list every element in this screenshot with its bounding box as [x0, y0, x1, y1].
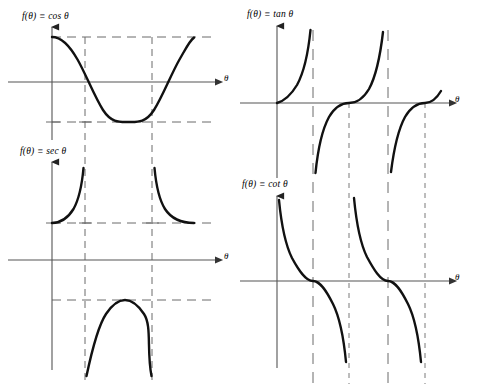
sec-function-label: f(θ) ≡ sec θ [20, 146, 66, 156]
panel-sec [8, 162, 216, 376]
left-column-vertical-guides [85, 37, 152, 384]
cot-x-axis-label: θ [455, 272, 459, 282]
right-column-vertical-guides [313, 30, 425, 384]
panel-tan [240, 26, 450, 178]
trigonometric-functions-figure [0, 0, 482, 384]
cos-function-label: f(θ) ≡ cos θ [22, 11, 69, 21]
sec-x-axis-label: θ [224, 251, 228, 261]
panel-cos [8, 27, 216, 140]
sec-branch-third [155, 168, 195, 223]
cos-x-axis-label: θ [224, 73, 228, 83]
sec-branch-first [52, 168, 84, 223]
cos-curve [52, 37, 194, 122]
tan-branch-first [277, 30, 311, 103]
tan-x-axis-label: θ [455, 94, 459, 104]
cot-function-label: f(θ) ≡ cot θ [242, 179, 288, 189]
panel-cot [240, 196, 450, 368]
tan-function-label: f(θ) ≡ tan θ [247, 9, 293, 19]
sec-branch-second [87, 300, 152, 376]
